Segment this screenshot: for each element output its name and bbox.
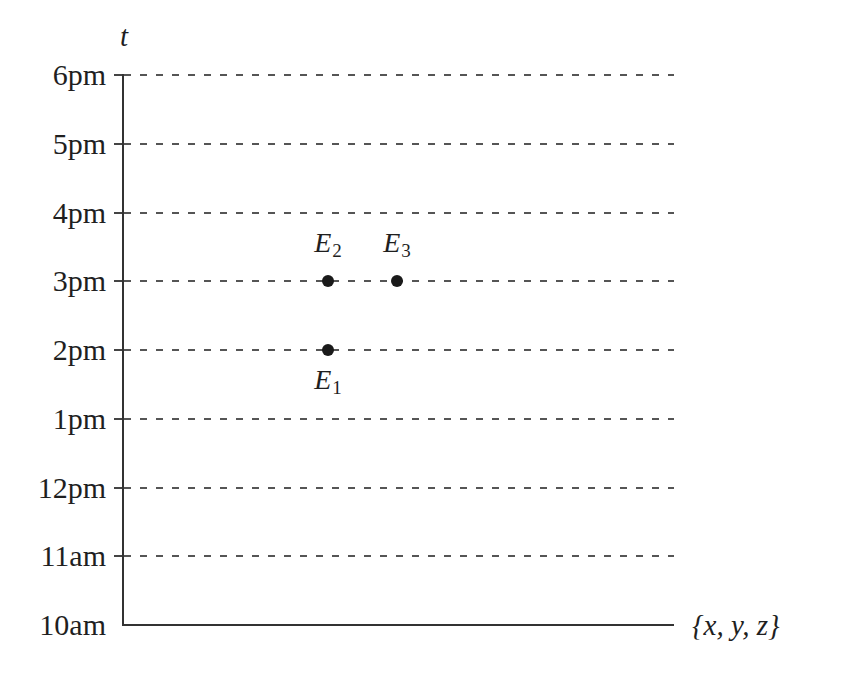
gridline-5pm (124, 143, 674, 145)
gridline-12pm (124, 487, 674, 489)
spacetime-event-diagram: t {x, y, z} 6pm 5pm 4pm 3pm 2pm 1pm 12pm… (0, 0, 844, 683)
event-label-e1-subscript: 1 (332, 377, 342, 398)
y-tick-label-10am: 10am (14, 610, 106, 640)
y-tick-1pm (114, 418, 122, 420)
y-tick-label-11am: 11am (14, 541, 106, 571)
event-point-e2 (322, 275, 334, 287)
gridline-11am (124, 555, 674, 557)
event-label-e2: E2 (296, 227, 360, 267)
y-tick-label-12pm: 12pm (14, 473, 106, 503)
event-label-e2-subscript: 2 (332, 240, 342, 261)
y-tick-4pm (114, 212, 122, 214)
gridline-1pm (124, 418, 674, 420)
event-point-e3 (391, 275, 403, 287)
y-tick-label-2pm: 2pm (14, 335, 106, 365)
gridline-2pm (124, 349, 674, 351)
y-tick-6pm (114, 74, 122, 76)
y-tick-label-5pm: 5pm (14, 129, 106, 159)
event-label-e3-subscript: 3 (401, 240, 411, 261)
event-point-e1 (322, 344, 334, 356)
event-label-e2-base: E (314, 227, 331, 258)
event-label-e1-base: E (314, 364, 331, 395)
y-tick-label-4pm: 4pm (14, 198, 106, 228)
gridline-6pm (124, 74, 674, 76)
event-label-e3-base: E (383, 227, 400, 258)
y-tick-3pm (114, 280, 122, 282)
y-tick-label-6pm: 6pm (14, 60, 106, 90)
gridline-4pm (124, 212, 674, 214)
y-tick-11am (114, 555, 122, 557)
y-tick-2pm (114, 349, 122, 351)
y-tick-5pm (114, 143, 122, 145)
x-axis-title: {x, y, z} (692, 608, 822, 642)
event-label-e3: E3 (365, 227, 429, 267)
event-label-e1: E1 (296, 364, 360, 404)
y-tick-label-1pm: 1pm (14, 404, 106, 434)
y-tick-label-3pm: 3pm (14, 266, 106, 296)
x-axis-line (122, 624, 674, 626)
y-tick-12pm (114, 487, 122, 489)
y-axis-title: t (104, 20, 144, 52)
